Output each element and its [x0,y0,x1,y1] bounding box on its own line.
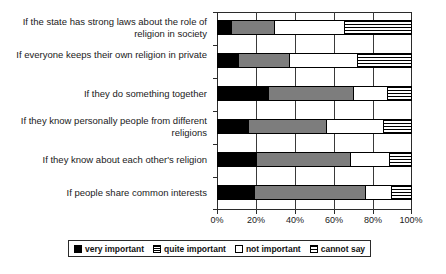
segment-quite-important [256,152,350,167]
category-label: If they know personally people from diff… [4,115,207,139]
segment-not-important [326,119,383,134]
x-axis-tick [295,210,296,214]
segment-quite-important [268,86,354,101]
x-axis-tick [411,210,412,214]
x-axis-tick [256,210,257,214]
stacked-bar [217,185,412,200]
bar-row [217,111,412,144]
stacked-bar-chart: If the state has strong laws about the r… [0,0,446,274]
segment-cannot-say [391,185,412,200]
bars-layer [217,12,412,210]
legend-swatch-icon [153,245,161,253]
category-label: If everyone keeps their own religion in … [4,49,207,61]
category-label: If people share common interests [4,187,207,199]
x-axis-tick-label: 0% [210,215,223,226]
x-axis-tick-label: 80% [364,215,382,226]
legend-item-not-important: not important [235,244,301,254]
legend-item-cannot-say: cannot say [310,244,365,254]
segment-very-important [217,185,254,200]
segment-very-important [217,86,268,101]
x-axis-tick [217,210,218,214]
category-axis-labels: If the state has strong laws about the r… [4,12,213,210]
stacked-bar [217,119,412,134]
bar-row [217,177,412,210]
segment-not-important [289,53,357,68]
segment-cannot-say [383,119,412,134]
segment-very-important [217,53,238,68]
segment-not-important [274,20,344,35]
legend-swatch-icon [74,245,82,253]
legend-label: cannot say [321,244,365,254]
stacked-bar [217,20,412,35]
category-label: If the state has strong laws about the r… [4,16,207,40]
segment-quite-important [238,53,289,68]
segment-cannot-say [387,86,412,101]
legend-label: not important [246,244,301,254]
segment-not-important [353,86,386,101]
segment-quite-important [254,185,365,200]
bar-row [217,45,412,78]
segment-not-important [350,152,389,167]
legend-label: very important [85,244,144,254]
x-axis-tick-label: 100% [399,215,422,226]
chart-legend: very important quite important not impor… [68,240,371,257]
segment-not-important [365,185,390,200]
category-label: If they know about each other's religion [4,154,207,166]
segment-very-important [217,20,231,35]
bar-row [217,78,412,111]
x-axis-tick [373,210,374,214]
bar-row [217,12,412,45]
segment-cannot-say [357,53,412,68]
x-axis-tick-label: 40% [286,215,304,226]
stacked-bar [217,53,412,68]
segment-cannot-say [344,20,412,35]
x-axis-tick-label: 20% [247,215,265,226]
bar-row [217,144,412,177]
legend-item-very-important: very important [74,244,144,254]
x-axis-tick [334,210,335,214]
legend-swatch-icon [310,245,318,253]
segment-cannot-say [389,152,412,167]
legend-item-quite-important: quite important [153,244,226,254]
x-axis-tick-label: 60% [325,215,343,226]
plot-area: 0% 20% 40% 60% 80% 100% [217,12,412,210]
legend-swatch-icon [235,245,243,253]
category-label: If they do something together [4,88,207,100]
segment-very-important [217,152,256,167]
stacked-bar [217,86,412,101]
segment-quite-important [231,20,274,35]
legend-label: quite important [164,244,226,254]
stacked-bar [217,152,412,167]
segment-very-important [217,119,248,134]
segment-quite-important [248,119,326,134]
